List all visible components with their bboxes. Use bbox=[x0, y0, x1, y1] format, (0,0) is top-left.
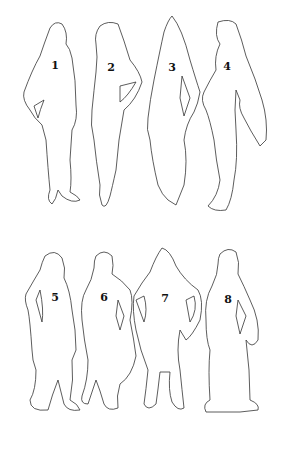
figure-label-3: 3 bbox=[168, 62, 176, 73]
figure-label-7: 7 bbox=[161, 293, 169, 304]
silhouette-diagram: 1 2 3 4 5 6 7 8 bbox=[0, 0, 281, 459]
silhouette-8 bbox=[205, 249, 259, 412]
silhouette-2 bbox=[91, 22, 142, 206]
figure-label-6: 6 bbox=[100, 292, 108, 303]
figure-label-8: 8 bbox=[224, 294, 232, 305]
figure-label-1: 1 bbox=[51, 60, 59, 71]
silhouette-1 bbox=[24, 23, 80, 204]
silhouette-5 bbox=[25, 252, 80, 410]
silhouette-6 bbox=[82, 252, 137, 409]
figure-label-5: 5 bbox=[51, 292, 59, 303]
figure-label-4: 4 bbox=[223, 61, 231, 72]
silhouette-3 bbox=[147, 16, 200, 205]
silhouette-7 bbox=[133, 248, 201, 409]
silhouette-4 bbox=[202, 20, 266, 210]
figure-label-2: 2 bbox=[107, 62, 115, 73]
